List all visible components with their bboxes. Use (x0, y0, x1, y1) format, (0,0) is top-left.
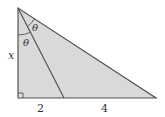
triangle-diagram: θ θ x 2 4 (0, 0, 165, 117)
label-base-2: 2 (37, 102, 44, 115)
label-theta-lower: θ (23, 37, 29, 48)
label-x: x (8, 49, 15, 62)
label-theta-upper: θ (32, 22, 38, 33)
triangle-fill (18, 8, 156, 98)
label-base-4: 4 (101, 102, 108, 115)
